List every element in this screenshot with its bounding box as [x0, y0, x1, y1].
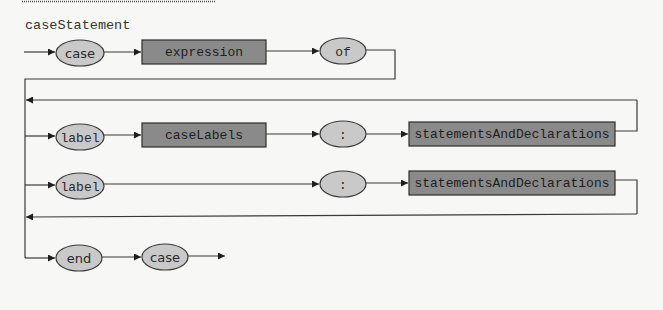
terminal-colon: : [320, 121, 366, 147]
exit-connector [615, 180, 637, 214]
svg-text:statementsAndDeclarations: statementsAndDeclarations [414, 127, 609, 142]
row-default-branch: label : statementsAndDeclarations [25, 171, 637, 214]
svg-text:caseLabels: caseLabels [165, 128, 243, 143]
nonterminal-statementsAndDeclarations: statementsAndDeclarations [409, 122, 615, 146]
svg-text:expression: expression [165, 45, 243, 60]
nonterminal-expression: expression [142, 40, 266, 64]
bottom-return-arrow [26, 214, 637, 217]
svg-text:case: case [150, 250, 180, 265]
svg-text:case: case [65, 46, 95, 61]
loop-back-connector [615, 100, 637, 131]
svg-text:end: end [67, 251, 92, 266]
nonterminal-statementsAndDeclarations: statementsAndDeclarations [409, 171, 615, 195]
svg-text:statementsAndDeclarations: statementsAndDeclarations [414, 176, 609, 191]
terminal-case-start: case [56, 40, 104, 66]
svg-text:label: label [60, 180, 99, 195]
svg-text:label: label [60, 131, 99, 146]
terminal-of: of [320, 38, 366, 64]
syntax-diagram: caseStatement case expression of label [0, 0, 663, 310]
terminal-label: label [56, 124, 104, 150]
nonterminal-caseLabels: caseLabels [142, 123, 266, 147]
row-labeled-branch: label caseLabels : statementsAndDeclarat… [25, 100, 637, 150]
svg-text::: : [339, 178, 347, 193]
svg-text::: : [339, 128, 347, 143]
connector-path [25, 50, 395, 258]
terminal-label: label [56, 173, 104, 199]
row-footer: end case [25, 244, 225, 271]
terminal-case-end: case [142, 244, 188, 270]
svg-text:of: of [335, 45, 351, 60]
diagram-title: caseStatement [25, 18, 130, 33]
terminal-colon: : [320, 171, 366, 197]
terminal-end: end [56, 245, 102, 271]
